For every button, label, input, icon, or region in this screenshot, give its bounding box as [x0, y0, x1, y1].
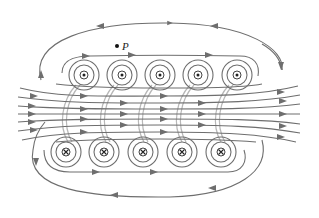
conductor-out-3	[145, 60, 175, 90]
solenoid-field-diagram: P	[0, 0, 319, 218]
conductor-out-4	[183, 60, 213, 90]
point-p-marker	[115, 44, 119, 48]
conductor-out-5	[222, 60, 252, 90]
conductor-in-3	[128, 137, 158, 167]
interior-field-lines	[18, 84, 300, 142]
point-p-label: P	[121, 40, 129, 52]
conductor-in-1	[51, 137, 81, 167]
field-lines-svg: P	[0, 0, 319, 218]
conductor-out-1	[69, 60, 99, 90]
bottom-conductors	[51, 137, 236, 167]
conductor-in-2	[89, 137, 119, 167]
conductor-out-2	[107, 60, 137, 90]
conductor-in-5	[206, 137, 236, 167]
conductor-in-4	[167, 137, 197, 167]
top-conductors	[69, 60, 252, 90]
